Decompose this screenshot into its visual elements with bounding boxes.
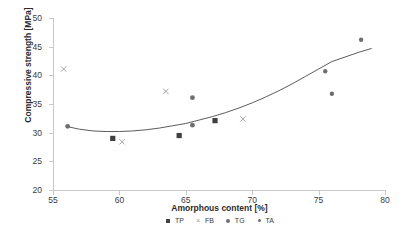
legend-label: FB xyxy=(205,217,214,224)
data-point xyxy=(323,69,327,73)
legend-item-tg[interactable]: TG xyxy=(225,217,245,224)
legend-marker-dot-small-icon xyxy=(256,217,263,224)
series-fb xyxy=(61,66,246,144)
legend-marker-shape xyxy=(226,219,230,223)
scatter-chart: 20253035404550 556065707580 Compressive … xyxy=(0,0,412,237)
data-point xyxy=(65,124,70,129)
chart-legend: TP×FBTGTA xyxy=(53,217,386,224)
legend-marker-shape xyxy=(258,219,261,222)
legend-marker-dot-icon xyxy=(225,217,232,224)
data-point xyxy=(163,89,168,94)
data-point xyxy=(190,95,195,100)
y-axis-title: Compressive strength [MPa] xyxy=(23,0,33,140)
legend-item-fb[interactable]: ×FB xyxy=(195,217,214,224)
plot-canvas xyxy=(53,18,385,190)
legend-item-tp[interactable]: TP xyxy=(165,217,184,224)
x-axis-line xyxy=(53,190,386,191)
series-tg xyxy=(65,95,195,128)
data-point xyxy=(240,116,245,121)
data-point xyxy=(119,139,124,144)
series-tp xyxy=(110,118,217,141)
data-point xyxy=(177,133,182,138)
y-tick-label: 25 xyxy=(8,157,42,166)
legend-label: TP xyxy=(175,217,184,224)
series-ta xyxy=(323,38,363,96)
legend-marker-shape xyxy=(166,219,170,223)
data-point xyxy=(330,91,334,95)
legend-marker-cross-icon: × xyxy=(195,217,202,224)
legend-label: TA xyxy=(266,217,274,224)
y-tick-label: 20 xyxy=(8,186,42,195)
data-point xyxy=(61,66,66,71)
legend-item-ta[interactable]: TA xyxy=(256,217,274,224)
data-point xyxy=(110,136,115,141)
plot-area xyxy=(53,18,385,190)
trendline xyxy=(66,48,371,131)
data-point xyxy=(212,118,217,123)
legend-label: TG xyxy=(235,217,245,224)
data-point xyxy=(359,38,363,42)
data-point xyxy=(190,123,195,128)
legend-marker-square-icon xyxy=(165,217,172,224)
x-axis-title: Amorphous content [%] xyxy=(53,203,386,213)
